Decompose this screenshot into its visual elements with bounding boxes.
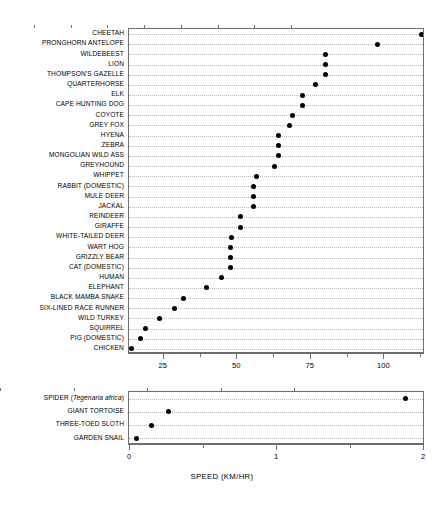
category-label: GARDEN SNAIL [0, 434, 124, 441]
gridline-row [129, 412, 423, 413]
data-point [403, 396, 408, 401]
x-tick-top [147, 388, 148, 391]
category-label: GIANT TORTOISE [0, 407, 124, 414]
x-tick-top [74, 388, 75, 391]
category-label: SPIDER (Tegenaria africa) [0, 394, 124, 401]
slow-animals-panel: SPIDER (Tegenaria africa)GIANT TORTOISET… [0, 0, 444, 511]
x-tick-label: 0 [127, 452, 131, 461]
x-axis-title: SPEED (KM/HR) [0, 472, 444, 481]
data-point [166, 409, 171, 414]
gridline-row [129, 438, 423, 439]
x-tick-major [276, 445, 277, 450]
x-tick-minor [203, 445, 204, 448]
x-tick-minor [350, 445, 351, 448]
data-point [134, 436, 139, 441]
data-point [149, 423, 154, 428]
x-tick-major [423, 445, 424, 450]
slow-animals-plot-area [128, 391, 424, 444]
x-tick-top [221, 388, 222, 391]
x-tick-major [129, 445, 130, 450]
x-tick-top [294, 388, 295, 391]
x-tick-label: 2 [421, 452, 425, 461]
gridline-row [129, 425, 423, 426]
x-tick-label: 1 [274, 452, 278, 461]
x-tick-top [0, 388, 1, 391]
chart-root: CHEETAHPRONGHORN ANTELOPEWILDEBEESTLIONT… [0, 0, 444, 511]
category-label: THREE-TOED SLOTH [0, 420, 124, 427]
gridline-row [129, 399, 423, 400]
